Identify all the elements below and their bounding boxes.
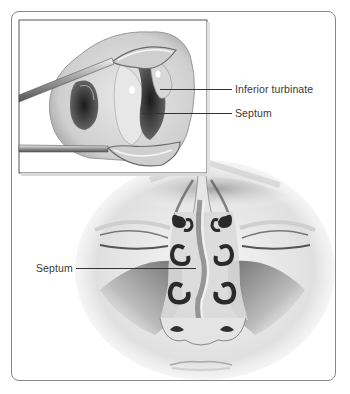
label-inferior-turbinate: Inferior turbinate (235, 83, 313, 95)
label-septum-inset: Septum (235, 107, 272, 119)
label-septum-main: Septum (36, 262, 73, 274)
inset-speculum-view (19, 20, 210, 176)
face-illustration (75, 160, 335, 380)
leader-line-septum-inset (142, 113, 232, 114)
leader-line-septum-main (76, 268, 196, 269)
nasal-anatomy-illustration (0, 0, 350, 394)
leader-line-inferior-turbinate (160, 89, 232, 90)
